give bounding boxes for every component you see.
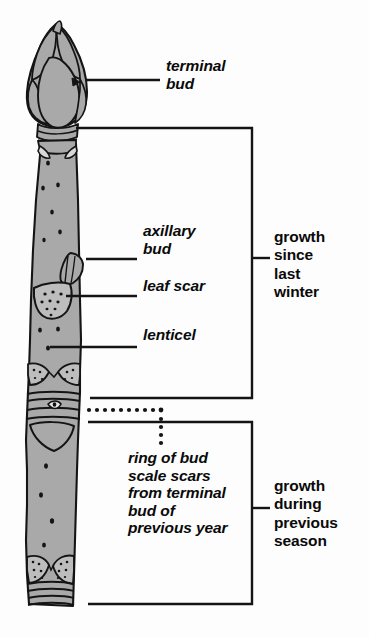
dotted-leader-horizontal [87,408,164,413]
leaf-scar-upper-group [34,283,72,319]
twig-stem-group [26,21,87,606]
bud-apex-tip [53,21,62,34]
label-axillary-bud: axillary bud [143,222,196,257]
bracket-upper [76,128,270,398]
label-ring-of-bud-scale-scars: ring of bud scale scars from terminal bu… [128,449,228,537]
twig-diagram-figure: terminal bud axillary bud leaf scar lent… [0,0,369,637]
label-growth-during-previous-season: growth during previous season [274,477,338,550]
bracket-upper-path [76,128,252,398]
label-growth-since-last-winter: growth since last winter [274,228,325,301]
label-terminal-bud: terminal bud [166,57,226,92]
label-lenticel: lenticel [143,326,196,344]
terminal-bud-group [27,21,87,128]
ring-lenticel-center [53,402,57,406]
dotted-leader-group [87,408,164,446]
leaf-scar-upper-shape [34,283,72,319]
label-leaf-scar: leaf scar [143,277,205,295]
terminal-bud-scar-ring-group [37,124,78,158]
